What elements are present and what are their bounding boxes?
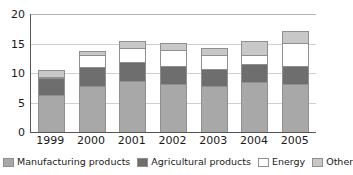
bar-segment[interactable] bbox=[119, 48, 146, 62]
bar-slot bbox=[194, 14, 235, 132]
bar-segment[interactable] bbox=[160, 84, 187, 132]
plot-wrapper: 20151050 1999200020012002200320042005 bbox=[0, 0, 321, 150]
y-tick-label: 0 bbox=[18, 127, 25, 138]
bar-segment[interactable] bbox=[201, 48, 228, 55]
bar-segment[interactable] bbox=[160, 66, 187, 84]
legend-swatch-icon bbox=[312, 158, 323, 167]
bar-slot bbox=[72, 14, 113, 132]
bar-segment[interactable] bbox=[282, 43, 309, 66]
legend-item[interactable]: Manufacturing products bbox=[3, 157, 130, 167]
y-tick-label: 15 bbox=[11, 38, 25, 49]
bar-segment[interactable] bbox=[241, 41, 268, 55]
x-tick-label: 2004 bbox=[234, 134, 275, 150]
bar-segment[interactable] bbox=[160, 50, 187, 66]
bar-segment[interactable] bbox=[282, 66, 309, 84]
stacked-bar[interactable] bbox=[119, 41, 146, 132]
bar-segment[interactable] bbox=[38, 95, 65, 132]
x-tick-label: 2000 bbox=[71, 134, 112, 150]
x-axis: 1999200020012002200320042005 bbox=[30, 134, 315, 150]
bar-segment[interactable] bbox=[201, 86, 228, 132]
bar-segment[interactable] bbox=[241, 82, 268, 132]
stacked-bar[interactable] bbox=[201, 48, 228, 132]
legend-swatch-icon bbox=[3, 158, 14, 167]
legend-swatch-icon bbox=[137, 158, 148, 167]
bar-slot bbox=[153, 14, 194, 132]
bars-layer bbox=[31, 14, 316, 132]
legend-label: Energy bbox=[272, 157, 305, 167]
y-tick-label: 5 bbox=[18, 97, 25, 108]
x-tick-label: 1999 bbox=[30, 134, 71, 150]
stacked-bar[interactable] bbox=[38, 70, 65, 132]
legend-label: Other bbox=[326, 157, 353, 167]
legend-swatch-icon bbox=[258, 158, 269, 167]
x-tick-label: 2002 bbox=[152, 134, 193, 150]
bar-segment[interactable] bbox=[282, 31, 309, 43]
bar-segment[interactable] bbox=[160, 43, 187, 50]
bar-slot bbox=[31, 14, 72, 132]
bar-segment[interactable] bbox=[282, 84, 309, 132]
stacked-bar[interactable] bbox=[241, 41, 268, 132]
legend-label: Manufacturing products bbox=[17, 157, 130, 167]
x-tick-label: 2001 bbox=[111, 134, 152, 150]
legend-item[interactable]: Agricultural products bbox=[137, 157, 251, 167]
bar-segment[interactable] bbox=[241, 64, 268, 82]
legend-item[interactable]: Other bbox=[312, 157, 353, 167]
bar-segment[interactable] bbox=[79, 55, 106, 66]
legend-label: Agricultural products bbox=[151, 157, 251, 167]
bar-slot bbox=[275, 14, 316, 132]
bar-segment[interactable] bbox=[201, 55, 228, 69]
bar-segment[interactable] bbox=[79, 86, 106, 132]
x-tick-label: 2003 bbox=[193, 134, 234, 150]
y-tick-label: 20 bbox=[11, 9, 25, 20]
bar-segment[interactable] bbox=[119, 41, 146, 48]
legend-item[interactable]: Energy bbox=[258, 157, 305, 167]
y-axis: 20151050 bbox=[0, 0, 28, 150]
chart-legend: Manufacturing productsAgricultural produ… bbox=[0, 153, 321, 171]
bar-segment[interactable] bbox=[38, 78, 65, 96]
bar-segment[interactable] bbox=[79, 67, 106, 86]
bar-slot bbox=[112, 14, 153, 132]
bar-segment[interactable] bbox=[241, 55, 268, 64]
stacked-bar[interactable] bbox=[79, 51, 106, 132]
bar-segment[interactable] bbox=[119, 62, 146, 81]
plot-area bbox=[30, 14, 316, 133]
bar-segment[interactable] bbox=[201, 69, 228, 86]
stacked-bar[interactable] bbox=[160, 43, 187, 132]
bar-segment[interactable] bbox=[119, 81, 146, 132]
stacked-bar[interactable] bbox=[282, 31, 309, 132]
x-tick-label: 2005 bbox=[274, 134, 315, 150]
bar-slot bbox=[235, 14, 276, 132]
y-tick-label: 10 bbox=[11, 68, 25, 79]
